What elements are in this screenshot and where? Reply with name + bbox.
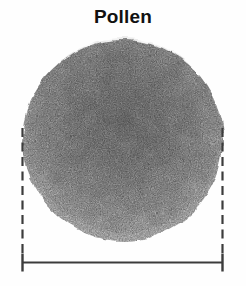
pollen-figure: Pollen [0, 0, 246, 286]
pollen-grain-texture [23, 40, 223, 240]
pollen-grain [23, 38, 223, 240]
pollen-diagram [0, 0, 246, 286]
